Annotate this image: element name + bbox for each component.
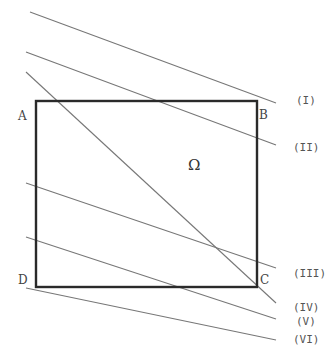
- region-omega-rectangle: [36, 101, 257, 287]
- line-label-iii: (III): [293, 267, 326, 280]
- line-label-ii: (II): [293, 141, 320, 154]
- line-i: [30, 12, 276, 103]
- line-iv: [26, 72, 276, 303]
- line-v: [26, 237, 276, 319]
- line-ii: [26, 52, 276, 145]
- region-label-omega: Ω: [188, 156, 200, 174]
- line-label-iv: (IV): [293, 301, 320, 314]
- lines: [26, 12, 276, 340]
- vertex-label-c: C: [260, 273, 269, 287]
- vertex-label-a: A: [17, 109, 27, 123]
- vertex-label-b: B: [259, 108, 268, 122]
- line-label-vi: (VI): [293, 333, 320, 346]
- line-vi: [26, 288, 276, 340]
- line-label-v: (V): [296, 315, 316, 328]
- line-iii: [26, 183, 276, 268]
- line-label-i: (I): [296, 94, 316, 107]
- vertex-label-d: D: [18, 273, 28, 287]
- region-lines-diagram: A B C D Ω (I) (II) (III) (IV) (V) (VI): [0, 0, 333, 361]
